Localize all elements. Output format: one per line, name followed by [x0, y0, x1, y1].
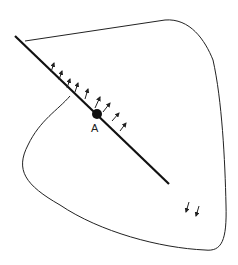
- vector-arrow-icon: [120, 123, 126, 131]
- diagram-svg: [0, 0, 238, 265]
- vector-arrow-icon: [75, 83, 78, 92]
- vector-arrow-icon: [103, 103, 110, 112]
- vector-arrow-icon: [85, 89, 88, 99]
- point-a: [92, 109, 102, 119]
- vector-arrow-icon: [95, 97, 100, 108]
- vector-arrow-icon: [196, 206, 199, 216]
- diagram-canvas: A: [0, 0, 238, 265]
- arrow-group: [51, 63, 199, 216]
- point-a-label: A: [91, 122, 98, 134]
- vector-arrow-icon: [112, 113, 119, 121]
- boundary-line: [15, 36, 169, 184]
- vector-arrow-icon: [186, 202, 189, 212]
